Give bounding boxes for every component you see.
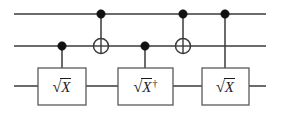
sqrt-x-gate-2-label: √X [202,68,249,105]
connector-group [62,14,225,68]
control-dot-col3-wire0[interactable] [179,10,187,18]
quantum-circuit-figure: √X √X† √X [0,0,281,113]
control-dot-col4-wire0[interactable] [221,10,229,18]
radicand-2: X [141,78,152,95]
sqrt-x-gate-1-label: √X [38,68,86,105]
radicand-3: X [224,78,235,95]
cnot-target-col1[interactable] [94,39,109,54]
cnot-target-col3[interactable] [176,39,191,54]
control-dot-col1-wire0[interactable] [97,10,105,18]
control-dot-col2-wire1[interactable] [141,42,149,50]
dagger-symbol: † [152,79,157,89]
radicand-1: X [60,78,71,95]
control-dot-group [58,10,229,50]
sqrt-x-dagger-gate-label: √X† [118,68,173,105]
control-dot-col0-wire1[interactable] [58,42,66,50]
